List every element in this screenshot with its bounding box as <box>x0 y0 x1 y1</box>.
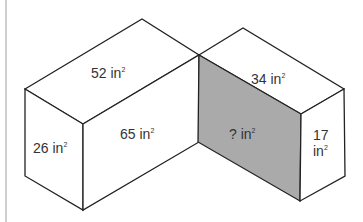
label-34: 34 in2 <box>251 71 285 87</box>
diagram-frame: 52 in2 26 in2 65 in2 34 in2 ? in2 17 in2 <box>0 0 363 222</box>
label-65: 65 in2 <box>120 126 154 142</box>
prisms-diagram: 52 in2 26 in2 65 in2 34 in2 ? in2 17 in2 <box>0 0 363 222</box>
label-17-line1: 17 <box>313 127 329 143</box>
label-26: 26 in2 <box>33 140 67 156</box>
label-52: 52 in2 <box>91 65 125 81</box>
